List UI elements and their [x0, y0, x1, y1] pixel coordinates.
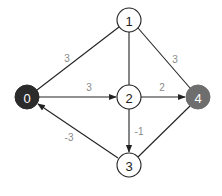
node-1: 1 [117, 8, 141, 32]
node-label-1: 1 [125, 14, 132, 29]
edge-label-1-0: 3 [64, 53, 70, 64]
edge-3-4 [138, 106, 190, 157]
edge-1-0 [37, 27, 119, 90]
edge-label-2-3: -1 [135, 126, 144, 137]
node-label-2: 2 [125, 91, 132, 106]
node-2: 2 [117, 85, 141, 109]
node-4: 4 [186, 85, 210, 109]
edge-label-0-2: 3 [86, 82, 92, 93]
edge-label-1-4: 3 [172, 54, 178, 65]
node-label-0: 0 [23, 91, 30, 106]
edge-label-3-0: -3 [65, 132, 74, 143]
node-label-4: 4 [194, 91, 201, 106]
node-0: 0 [15, 85, 39, 109]
node-3: 3 [117, 153, 141, 177]
edge-3-0 [38, 104, 118, 158]
graph-diagram: 3 3 3 2 -1 -3 0 1 2 3 4 [0, 0, 222, 196]
edge-1-4 [138, 28, 190, 88]
edge-label-2-4: 2 [159, 82, 165, 93]
node-label-3: 3 [125, 159, 132, 174]
